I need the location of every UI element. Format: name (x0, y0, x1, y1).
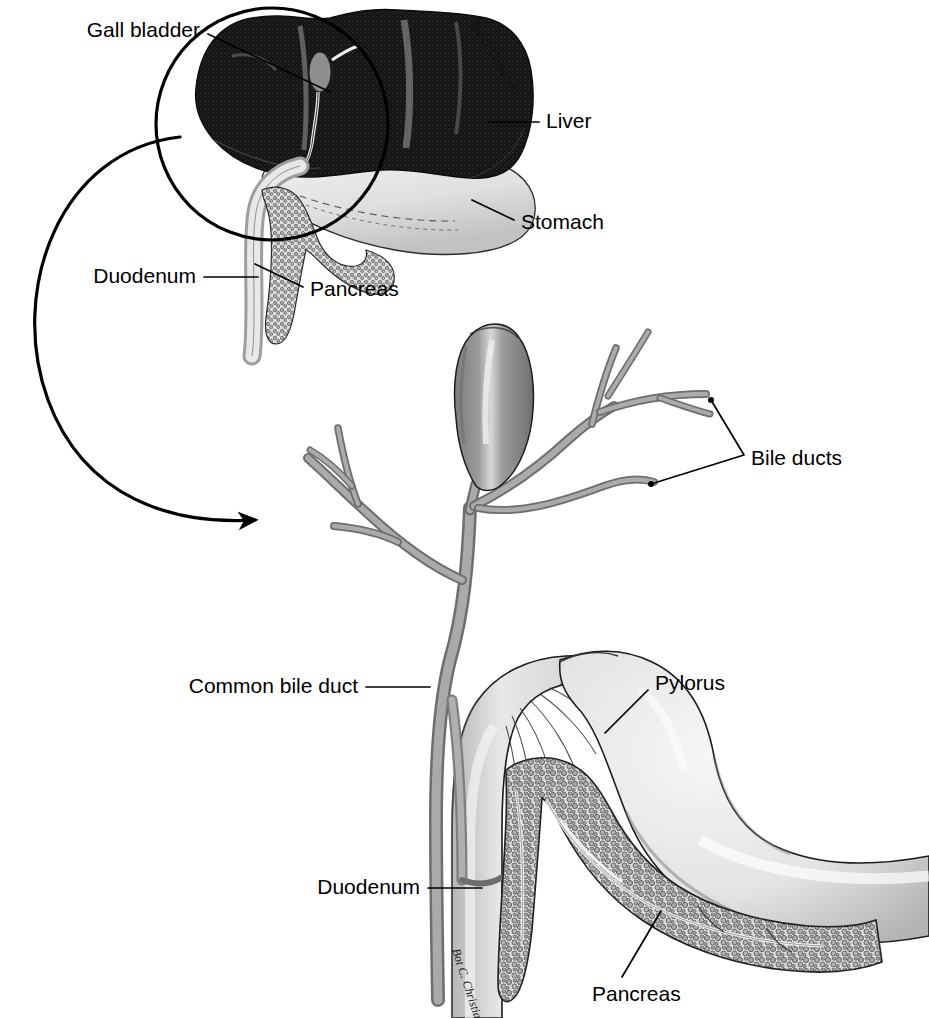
bile-duct-tip-lower (648, 481, 654, 487)
label-pancreas-inset: Pancreas (310, 277, 399, 300)
gallbladder-shape (455, 324, 534, 491)
label-pylorus: Pylorus (655, 671, 725, 694)
label-gall-bladder: Gall bladder (87, 18, 200, 41)
label-bile-ducts: Bile ducts (751, 446, 842, 469)
magnification-arrow (35, 137, 255, 521)
leader-pancreas-detail (622, 911, 661, 977)
label-duodenum-inset: Duodenum (93, 264, 196, 287)
label-stomach: Stomach (521, 210, 604, 233)
overview-inset (156, 8, 535, 356)
figure-canvas: Bot C. Christian Bot C. Christian Gall b… (0, 0, 929, 1018)
bile-duct-tip-upper (708, 397, 714, 403)
label-liver: Liver (546, 109, 592, 132)
label-duodenum-detail: Duodenum (317, 875, 420, 898)
label-common-bile-duct: Common bile duct (189, 674, 358, 697)
label-pancreas-detail: Pancreas (592, 982, 681, 1005)
detail-view: Bot C. Christian (308, 324, 929, 1018)
anatomy-figure: Bot C. Christian Bot C. Christian Gall b… (0, 0, 929, 1018)
